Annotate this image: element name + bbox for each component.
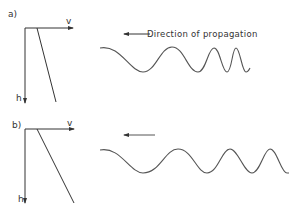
panel-a-h-label: h [16, 93, 22, 103]
panel-a-velocity-profile [37, 28, 56, 102]
panel-a-wave [100, 47, 250, 72]
panel-a: a) v h Direction of propagation [8, 9, 258, 103]
panel-b-h-label: h [18, 194, 24, 204]
wave-propagation-diagram: a) v h Direction of propagation b) v h [0, 0, 302, 212]
panel-a-caption: Direction of propagation [147, 29, 258, 39]
panel-b-label: b) [12, 120, 21, 130]
panel-b-velocity-profile [37, 129, 74, 203]
panel-b-v-label: v [67, 118, 73, 128]
panel-a-v-label: v [66, 16, 72, 26]
panel-b-wave [100, 149, 289, 173]
panel-a-label: a) [8, 9, 17, 19]
panel-b: b) v h [12, 118, 289, 204]
